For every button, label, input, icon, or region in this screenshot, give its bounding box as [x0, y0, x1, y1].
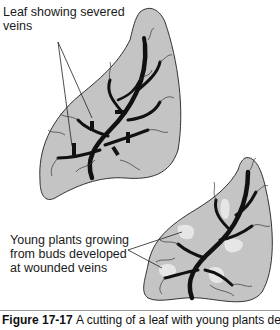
upper-leaf — [40, 8, 181, 199]
label-line: from buds developed — [10, 247, 130, 261]
label-line: Leaf showing severed — [3, 5, 133, 19]
figure-caption: Figure 17-17 A cutting of a leaf with yo… — [2, 313, 280, 327]
leaf-diagram — [0, 0, 280, 330]
caption-divider — [0, 310, 280, 311]
label-young-plants: Young plants growing from buds developed… — [10, 233, 130, 275]
caption-number: Figure 17-17 — [2, 313, 73, 327]
label-line: veins — [3, 19, 133, 33]
label-line: at wounded veins — [10, 261, 130, 275]
label-severed-veins: Leaf showing severed veins — [3, 5, 133, 33]
label-line: Young plants growing — [10, 233, 130, 247]
lower-leaf — [144, 158, 273, 302]
caption-text: A cutting of a leaf with young plants de… — [76, 313, 280, 327]
